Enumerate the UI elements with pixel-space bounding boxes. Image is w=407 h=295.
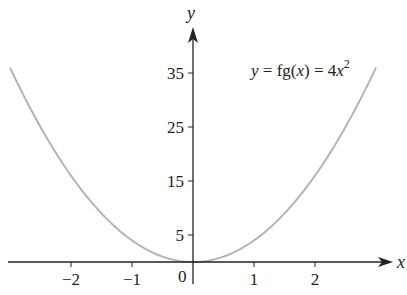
chart-canvas: −2−112 5152535 0 x y y = fg(x) = 4x2 [0, 0, 407, 295]
y-tick-label: 15 [167, 172, 184, 191]
y-ticks: 5152535 [167, 64, 193, 245]
origin-label: 0 [178, 267, 187, 286]
x-ticks: −2−112 [62, 262, 319, 289]
y-axis-label: y [185, 3, 195, 23]
x-tick-label: −1 [123, 270, 141, 289]
x-tick-label: 1 [250, 270, 259, 289]
y-tick-label: 25 [167, 118, 184, 137]
x-tick-label: 2 [311, 270, 320, 289]
y-tick-label: 5 [176, 226, 185, 245]
y-tick-label: 35 [167, 64, 184, 83]
x-axis-label: x [396, 252, 405, 272]
x-tick-label: −2 [62, 270, 80, 289]
equation-label: y = fg(x) = 4x2 [249, 57, 350, 80]
